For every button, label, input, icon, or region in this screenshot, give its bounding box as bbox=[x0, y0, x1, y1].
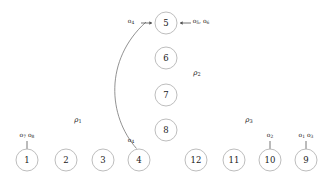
arrow-o4-into-5: o4 bbox=[128, 17, 152, 25]
node-7[interactable]: 7 bbox=[155, 84, 177, 106]
arrow-head-icon bbox=[149, 21, 152, 25]
edge-node4-to-node5 bbox=[115, 22, 146, 149]
edge-labels-group: o4 bbox=[128, 136, 135, 144]
observation-label: o2 bbox=[267, 131, 274, 139]
node-label-9: 9 bbox=[303, 155, 308, 165]
node-4[interactable]: 4 bbox=[128, 149, 150, 171]
node-label-6: 6 bbox=[163, 53, 168, 63]
region-label-rho1: ρ1 bbox=[73, 116, 81, 124]
edge-observation-label: o4 bbox=[128, 136, 135, 144]
edge-group bbox=[115, 22, 146, 149]
node-label-4: 4 bbox=[136, 155, 141, 165]
node-label-5: 5 bbox=[163, 18, 168, 28]
graph-svg: o4o5, o6o7 o8o2o1 o3 123412111095678 o4 … bbox=[0, 0, 333, 179]
node-10[interactable]: 10 bbox=[259, 149, 281, 171]
arrow-o13-into-9: o1 o3 bbox=[299, 131, 314, 152]
diagram-canvas: o4o5, o6o7 o8o2o1 o3 123412111095678 o4 … bbox=[0, 0, 333, 179]
observation-label: o7 o8 bbox=[20, 131, 35, 139]
node-label-12: 12 bbox=[191, 155, 202, 165]
observation-label: o4 bbox=[128, 17, 135, 25]
arrow-o78-into-1: o7 o8 bbox=[20, 131, 35, 152]
observation-label: o1 o3 bbox=[299, 131, 314, 139]
node-label-7: 7 bbox=[163, 90, 168, 100]
node-label-2: 2 bbox=[63, 155, 68, 165]
region-label-rho2: ρ2 bbox=[192, 69, 200, 77]
node-label-10: 10 bbox=[265, 155, 276, 165]
arrow-o2-into-10: o2 bbox=[267, 131, 274, 152]
arrow-o56-into-5: o5, o6 bbox=[180, 17, 210, 25]
node-3[interactable]: 3 bbox=[92, 149, 114, 171]
node-12[interactable]: 12 bbox=[185, 149, 207, 171]
node-9[interactable]: 9 bbox=[295, 149, 317, 171]
node-6[interactable]: 6 bbox=[155, 47, 177, 69]
node-label-8: 8 bbox=[163, 125, 168, 135]
node-8[interactable]: 8 bbox=[155, 119, 177, 141]
node-1[interactable]: 1 bbox=[16, 149, 38, 171]
node-label-3: 3 bbox=[100, 155, 105, 165]
arrow-head-icon bbox=[180, 21, 183, 25]
region-label-rho3: ρ3 bbox=[244, 116, 252, 124]
node-label-11: 11 bbox=[229, 155, 240, 165]
nodes-group: 123412111095678 bbox=[16, 12, 317, 171]
node-2[interactable]: 2 bbox=[55, 149, 77, 171]
node-11[interactable]: 11 bbox=[223, 149, 245, 171]
node-label-1: 1 bbox=[24, 155, 29, 165]
observation-label: o5, o6 bbox=[193, 17, 210, 25]
node-5[interactable]: 5 bbox=[155, 12, 177, 34]
